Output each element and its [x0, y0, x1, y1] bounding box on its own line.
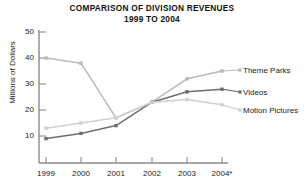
series-line-videos: [46, 89, 222, 138]
revenue-line-chart: COMPARISON OF DIVISION REVENUES 1999 TO …: [0, 0, 304, 192]
legend-marker: [238, 108, 241, 111]
legend-marker: [238, 90, 241, 93]
plot-area: [0, 0, 304, 192]
leader-lines: [222, 68, 242, 111]
leader-line: [222, 105, 240, 110]
y-tick-marks: [39, 32, 46, 136]
x-tick-marks: [46, 157, 222, 163]
data-point: [79, 121, 82, 124]
data-point: [185, 90, 188, 93]
data-point: [44, 56, 47, 59]
data-point: [79, 62, 82, 65]
data-point: [185, 98, 188, 101]
series-line-theme-parks: [46, 58, 222, 118]
leader-line: [222, 89, 240, 92]
data-point: [44, 127, 47, 130]
leader-line: [222, 70, 240, 71]
data-point: [79, 132, 82, 135]
data-point: [114, 124, 117, 127]
data-point: [150, 101, 153, 104]
data-point: [44, 137, 47, 140]
series-layer: [44, 56, 223, 140]
data-point: [185, 77, 188, 80]
legend-marker: [238, 68, 241, 71]
data-point: [114, 116, 117, 119]
